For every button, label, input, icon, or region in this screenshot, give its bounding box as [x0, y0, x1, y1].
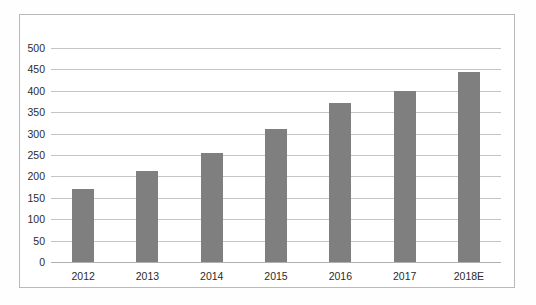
- x-tick-label-2013: 2013: [136, 271, 159, 282]
- bar-2014[interactable]: [201, 153, 223, 262]
- y-tick-label-50: 50: [33, 235, 45, 246]
- bar-slot-2015: 2015: [244, 48, 308, 262]
- y-tick-label-100: 100: [27, 214, 45, 225]
- bar-slot-2013: 2013: [115, 48, 179, 262]
- x-tick-label-2012: 2012: [71, 271, 94, 282]
- bar-2015[interactable]: [265, 129, 287, 262]
- bar-2016[interactable]: [329, 103, 351, 262]
- bar-slot-2018e: 2018E: [437, 48, 501, 262]
- x-tick-label-2014: 2014: [200, 271, 223, 282]
- y-tick-label-0: 0: [39, 257, 45, 268]
- x-tick-label-2018e: 2018E: [454, 271, 484, 282]
- bar-series: 2012 2013 2014 2015 2016 2017: [51, 48, 501, 262]
- gridline-0-baseline: 0: [51, 262, 501, 263]
- bar-2013[interactable]: [136, 171, 158, 262]
- chart-figure: 500 450 400 350 300 250 200 150: [0, 0, 536, 305]
- y-tick-label-400: 400: [27, 86, 45, 97]
- y-tick-label-350: 350: [27, 107, 45, 118]
- x-tick-label-2015: 2015: [264, 271, 287, 282]
- bar-2018e[interactable]: [458, 72, 480, 262]
- bar-slot-2017: 2017: [373, 48, 437, 262]
- chart-plot-area: 500 450 400 350 300 250 200 150: [51, 48, 501, 262]
- x-tick-label-2016: 2016: [329, 271, 352, 282]
- bar-slot-2014: 2014: [180, 48, 244, 262]
- y-tick-label-450: 450: [27, 64, 45, 75]
- y-tick-label-200: 200: [27, 171, 45, 182]
- bar-slot-2016: 2016: [308, 48, 372, 262]
- bar-2017[interactable]: [394, 91, 416, 262]
- bar-2012[interactable]: [72, 189, 94, 262]
- y-tick-label-300: 300: [27, 128, 45, 139]
- y-tick-label-150: 150: [27, 193, 45, 204]
- y-tick-label-500: 500: [27, 43, 45, 54]
- bar-slot-2012: 2012: [51, 48, 115, 262]
- y-tick-label-250: 250: [27, 150, 45, 161]
- x-tick-label-2017: 2017: [393, 271, 416, 282]
